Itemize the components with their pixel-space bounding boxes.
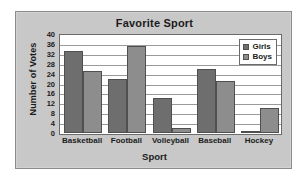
y-axis-tick: 0: [33, 130, 55, 138]
legend-label: Boys: [252, 53, 272, 61]
bar-football-girls: [108, 79, 127, 133]
bar-hockey-boys: [260, 108, 279, 133]
plot-wrapper: 0481216202428323640 GirlsBoys: [59, 34, 282, 135]
y-axis-tick: 16: [33, 91, 55, 99]
x-axis-tick-labels: BasketballFootballVolleyballBaseballHock…: [59, 136, 282, 150]
y-axis-tick: 40: [33, 31, 55, 39]
plot-area: GirlsBoys: [59, 34, 282, 135]
bar-group: [64, 36, 102, 133]
y-axis-tick: 28: [33, 61, 55, 69]
bar-group: [108, 36, 146, 133]
bar-baseball-girls: [197, 69, 216, 133]
bar-basketball-girls: [64, 51, 83, 133]
legend-item-boys: Boys: [243, 52, 272, 62]
y-axis-tick: 8: [33, 110, 55, 118]
legend-swatch-icon: [243, 44, 249, 50]
bar-football-boys: [127, 46, 146, 133]
chart-title: Favorite Sport: [16, 17, 293, 29]
y-axis-tick: 12: [33, 101, 55, 109]
bar-baseball-boys: [216, 81, 235, 133]
x-axis-tick-hockey: Hockey: [245, 136, 273, 145]
bar-basketball-boys: [83, 71, 102, 133]
y-axis-tick: 36: [33, 41, 55, 49]
y-axis-tick-labels: 0481216202428323640: [33, 34, 55, 135]
y-axis-tick: 32: [33, 51, 55, 59]
y-axis-tick: 4: [33, 120, 55, 128]
x-axis-title: Sport: [16, 151, 293, 162]
x-axis-tick-football: Football: [111, 136, 142, 145]
chart-figure: Favorite Sport Number of Votes 048121620…: [15, 11, 292, 169]
bar-group: [153, 36, 191, 133]
legend-label: Girls: [252, 43, 270, 51]
legend-swatch-icon: [243, 54, 249, 60]
bar-volleyball-boys: [172, 128, 191, 133]
chart-legend: GirlsBoys: [239, 39, 277, 65]
y-axis-tick: 20: [33, 81, 55, 89]
x-axis-tick-volleyball: Volleyball: [152, 136, 189, 145]
bar-hockey-girls: [241, 131, 260, 133]
y-axis-tick: 24: [33, 71, 55, 79]
bar-group: [197, 36, 235, 133]
x-axis-tick-basketball: Basketball: [62, 136, 102, 145]
bar-volleyball-girls: [153, 98, 172, 133]
legend-item-girls: Girls: [243, 42, 272, 52]
x-axis-tick-baseball: Baseball: [198, 136, 231, 145]
